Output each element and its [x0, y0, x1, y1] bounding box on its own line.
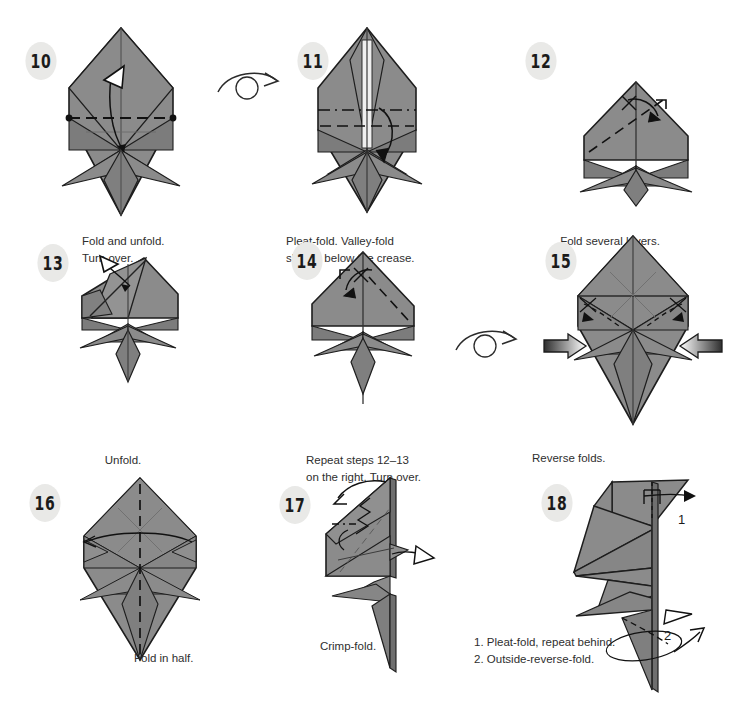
step-15: 15 [488, 234, 732, 468]
step-caption-16: Fold in half. [134, 650, 244, 667]
paper-shape [574, 236, 692, 424]
step-18: 18 [488, 468, 732, 702]
origami-figure-step-13 [0, 234, 244, 468]
origami-instruction-sheet: 10 [0, 0, 732, 702]
step-caption-15: Reverse folds. [532, 450, 712, 467]
origami-figure-step-11 [244, 0, 488, 234]
origami-figure-step-16 [0, 468, 244, 702]
push-arrow-left [544, 334, 586, 358]
step-13: 13 Unfold. [0, 234, 244, 468]
origami-figure-step-10 [0, 0, 244, 234]
step-caption-18: 1. Pleat-fold, repeat behind. 2. Outside… [474, 634, 704, 667]
step-12: 12 [488, 0, 732, 234]
paper-shape [312, 28, 422, 212]
step-caption-17: Crimp-fold. [258, 638, 438, 655]
step-caption-13: Unfold. [28, 452, 218, 469]
origami-figure-step-12 [488, 0, 732, 234]
step-10: 10 [0, 0, 244, 234]
origami-figure-step-17 [244, 468, 488, 702]
paper-shape [580, 82, 692, 206]
step-11: 11 Pleat- [244, 0, 488, 234]
paper-shape [312, 252, 414, 404]
paper-shape [62, 28, 180, 215]
paper-shape [80, 258, 178, 382]
step-17: 17 [244, 468, 488, 702]
origami-figure-step-15 [488, 234, 732, 468]
label-1: 1 [678, 512, 685, 527]
push-arrow-right [680, 334, 722, 358]
step-16: 16 [0, 468, 244, 702]
